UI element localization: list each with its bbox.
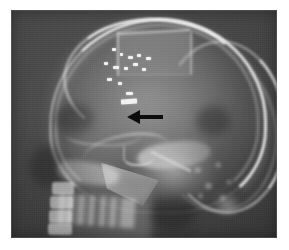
radiograph-figure [0,0,289,250]
surgical-clip [133,63,138,66]
surgical-clip [137,54,141,57]
surgical-clip [118,82,122,85]
craniotomy-flap [117,30,193,76]
surgical-clip [112,48,116,51]
surgical-clip [113,66,119,69]
surgical-clip [124,67,128,70]
surgical-clip [146,57,151,60]
craniotomy-flap-edge-inferior [119,74,189,75]
surgical-clip [120,53,123,56]
surgical-clip [107,78,112,81]
surgical-clip [142,68,146,71]
occipital-condyle [207,188,247,222]
vertebral-body [50,196,73,209]
vertebral-body [48,223,72,235]
craniotomy-flap-edge-posterior [190,32,192,75]
arrow-shaft [138,115,163,118]
annotation-arrow [127,110,163,124]
air-shadow [196,106,230,136]
radiograph-image [11,10,277,238]
vertebral-body [49,210,72,223]
surgical-clip [126,92,133,95]
vertebral-body [52,182,74,195]
surgical-clip [128,56,133,59]
surgical-clip [104,62,108,65]
craniotomy-flap-edge-anterior [117,32,119,76]
